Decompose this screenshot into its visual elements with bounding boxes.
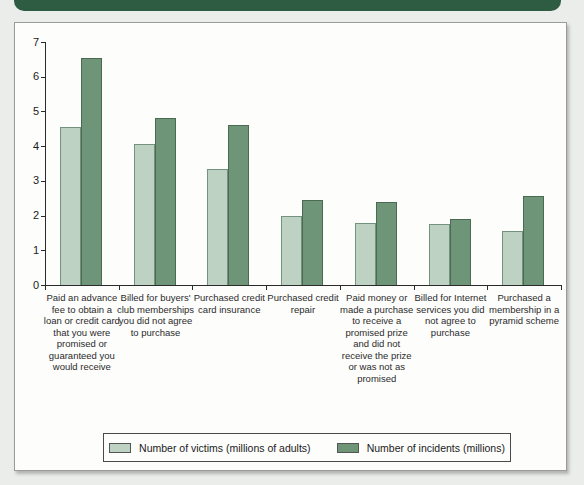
victims-bar — [207, 169, 228, 285]
incidents-bar — [523, 196, 544, 285]
y-axis-tick-label: 6 — [19, 71, 39, 82]
incidents-bar — [228, 125, 249, 285]
victims-bar — [281, 216, 302, 285]
y-axis-tick-label: 7 — [19, 37, 39, 48]
victims-bar — [60, 127, 81, 285]
chart-panel: 01234567Paid an advance fee to obtain a … — [14, 22, 567, 471]
x-category-label: Paid money or made a purchase to receive… — [338, 292, 416, 384]
incidents-bar — [450, 219, 471, 285]
x-category-label: Purchased credit card insurance — [190, 292, 268, 315]
victims-bar — [429, 224, 450, 285]
y-axis-tick-label: 3 — [19, 175, 39, 186]
incidents-bar — [376, 202, 397, 285]
incidents-bar — [155, 118, 176, 285]
x-category-label: Purchased credit repair — [264, 292, 342, 315]
y-axis-tick-label: 1 — [19, 245, 39, 256]
y-axis-tick-label: 5 — [19, 106, 39, 117]
x-category-label: Billed for Internet services you did not… — [412, 292, 490, 338]
y-axis-tick — [41, 181, 45, 182]
x-axis-tick — [340, 286, 341, 290]
incidents-legend-swatch — [337, 443, 359, 453]
header-band — [14, 0, 561, 11]
x-category-label: Paid an advance fee to obtain a loan or … — [43, 292, 121, 373]
y-axis-tick — [41, 250, 45, 251]
y-axis-tick-label: 2 — [19, 210, 39, 221]
y-axis-tick-label: 4 — [19, 141, 39, 152]
incidents-legend-label: Number of incidents (millions) — [367, 442, 505, 454]
y-axis-line — [45, 42, 46, 286]
y-axis-tick — [41, 111, 45, 112]
y-axis-tick — [41, 42, 45, 43]
victims-bar — [134, 144, 155, 285]
y-axis-tick — [41, 146, 45, 147]
y-axis-tick-label: 0 — [19, 280, 39, 291]
x-axis-tick — [45, 286, 46, 290]
x-axis-tick — [414, 286, 415, 290]
x-axis-tick — [119, 286, 120, 290]
victims-bar — [502, 231, 523, 285]
legend-item-victims: Number of victims (millions of adults) — [109, 442, 311, 454]
incidents-bar — [302, 200, 323, 285]
legend-item-incidents: Number of incidents (millions) — [337, 442, 505, 454]
victims-legend-swatch — [109, 443, 131, 453]
x-axis-line — [45, 285, 562, 286]
victims-bar — [355, 223, 376, 285]
x-axis-tick — [487, 286, 488, 290]
chart-legend: Number of victims (millions of adults) N… — [103, 433, 511, 462]
x-axis-tick — [561, 286, 562, 290]
x-category-label: Purchased a membership in a pyramid sche… — [485, 292, 563, 327]
victims-legend-label: Number of victims (millions of adults) — [139, 442, 311, 454]
x-category-label: Billed for buyers' club memberships you … — [117, 292, 195, 338]
y-axis-tick — [41, 77, 45, 78]
x-axis-tick — [266, 286, 267, 290]
y-axis-tick — [41, 216, 45, 217]
x-axis-tick — [192, 286, 193, 290]
incidents-bar — [81, 58, 102, 285]
